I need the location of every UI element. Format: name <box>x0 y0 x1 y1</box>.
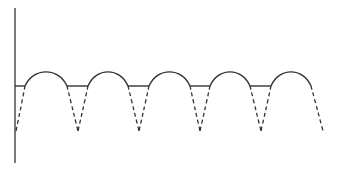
arch <box>210 72 250 86</box>
dashed-cusp-left <box>78 86 88 131</box>
arch <box>149 72 190 86</box>
arch <box>88 72 128 86</box>
dashed-cusp-left <box>16 86 25 131</box>
dashed-cusp-right <box>128 86 139 131</box>
dashed-cusp-right <box>67 86 78 131</box>
dashed-cusp-right <box>190 86 200 131</box>
arch <box>25 72 67 86</box>
waveform-diagram <box>0 0 340 174</box>
arch <box>271 72 311 86</box>
dashed-cusp-right <box>250 86 261 131</box>
dashed-cusps <box>16 86 323 131</box>
dashed-cusp-left <box>200 86 210 131</box>
dashed-cusp-left <box>139 86 149 131</box>
dashed-cusp-left <box>261 86 271 131</box>
dashed-cusp-right <box>311 86 323 131</box>
solid-waveform <box>15 72 311 86</box>
